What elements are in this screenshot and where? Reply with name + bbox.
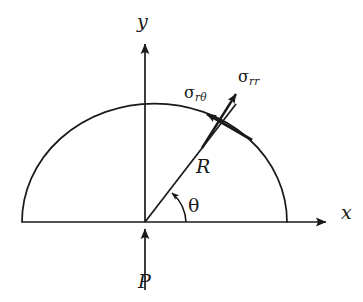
diagram-canvas [0,0,363,302]
sigma-rtheta-label: σrθ [184,85,207,102]
sigma-rtheta-arrow [207,114,252,140]
x-axis-label: x [341,203,352,222]
theta-angle-arc [172,193,186,222]
sigma-rtheta-subscript: rθ [195,91,207,103]
sigma-rr-subscript: rr [249,75,259,87]
theta-angle-label: θ [188,196,199,215]
semicircle-arc [22,104,287,222]
y-axis-label: y [137,12,148,31]
radius-label: R [196,157,210,176]
sigma-glyph: σ [184,83,195,102]
sigma-glyph: σ [238,67,249,86]
sigma-rr-label: σrr [238,69,259,86]
load-label: P [138,272,151,291]
flamant-problem-diagram: y x R θ P σrθ σrr [0,0,363,302]
